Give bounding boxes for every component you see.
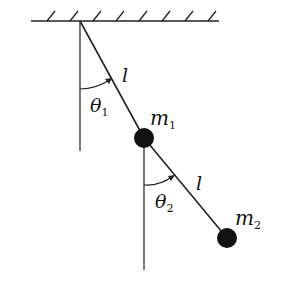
theta2-label: θ2 (155, 190, 173, 215)
ceiling (31, 11, 219, 21)
diagram-canvas: l l θ1 θ2 m1 m2 (0, 0, 297, 291)
rod-2 (144, 138, 227, 238)
arrowhead-theta2 (168, 175, 175, 181)
m1-label: m1 (150, 106, 176, 132)
angle-arc-theta2 (144, 176, 173, 185)
mass-1-bob (134, 128, 154, 148)
mass-2-bob (217, 228, 237, 248)
length-label-1: l (122, 64, 128, 86)
length-label-2: l (196, 172, 202, 194)
theta1-label: θ1 (90, 94, 108, 119)
arrowhead-theta1 (105, 78, 112, 84)
ceiling-hatching (47, 11, 216, 21)
m2-label: m2 (235, 206, 261, 232)
rod-1 (80, 21, 144, 138)
double-pendulum-diagram: l l θ1 θ2 m1 m2 (0, 0, 297, 291)
